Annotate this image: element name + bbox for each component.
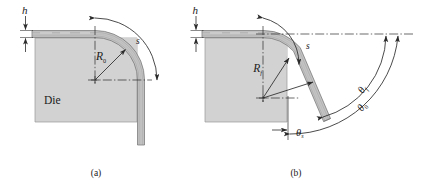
label-die: Die — [44, 94, 61, 106]
caption-b: (b) — [290, 168, 301, 179]
label-s-a: s — [136, 36, 140, 46]
bending-springback-figure: h R0 s Die (a) — [0, 0, 421, 189]
caption-a: (a) — [91, 168, 102, 179]
label-s-b: s — [306, 41, 310, 51]
label-h-a: h — [22, 4, 28, 16]
label-h-b: h — [193, 4, 199, 16]
